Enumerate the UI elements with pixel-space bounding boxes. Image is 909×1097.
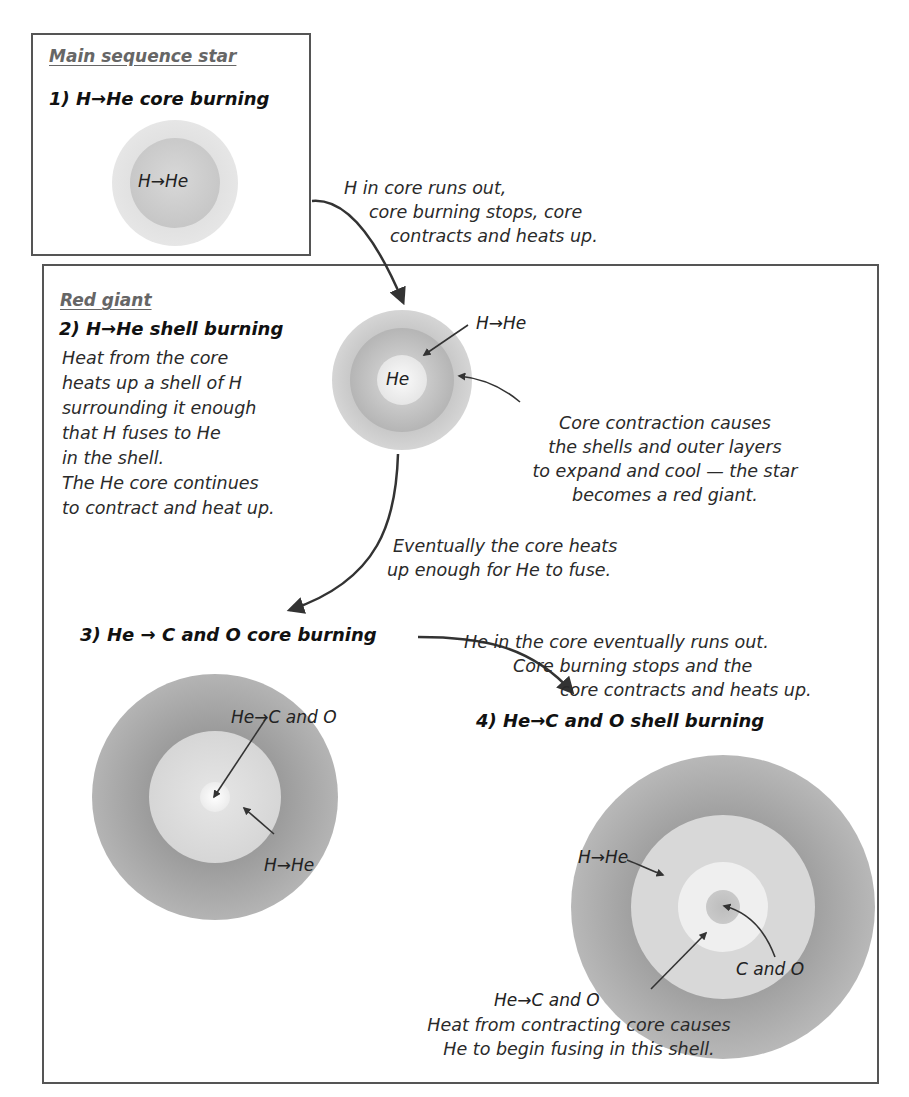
step2-desc-line: surrounding it enough — [62, 397, 256, 419]
step2-title: 2) H→He shell burning — [59, 318, 283, 339]
transition-2-3-line1: Eventually the core heats — [393, 535, 617, 557]
step1-title: 1) H→He core burning — [49, 88, 269, 109]
star2-core-label: He — [386, 369, 409, 389]
star3-shell-label: H→He — [264, 855, 314, 875]
star4-core-label: C and O — [736, 959, 804, 979]
expansion-note-line: Core contraction causes — [505, 412, 825, 434]
transition-3-4-line2: Core burning stops and the — [513, 655, 752, 677]
transition-1-2-line3: contracts and heats up. — [390, 225, 598, 247]
transition-1-2-line2: core burning stops, core — [369, 201, 582, 223]
step2-desc-line: Heat from the core — [62, 347, 228, 369]
step3-title: 3) He → C and O core burning — [80, 624, 377, 645]
expansion-note-line: becomes a red giant. — [505, 484, 825, 506]
star4-outer-shell-label: H→He — [578, 847, 628, 867]
step2-desc-line: The He core continues — [62, 472, 259, 494]
transition-2-3-line2: up enough for He to fuse. — [387, 559, 611, 581]
step2-desc-line: that H fuses to He — [62, 422, 221, 444]
star1-label: H→He — [138, 171, 188, 191]
expansion-note-line: the shells and outer layers — [505, 436, 825, 458]
step2-desc-line: to contract and heat up. — [62, 497, 275, 519]
expansion-note-line: to expand and cool — the star — [505, 460, 825, 482]
transition-1-2-line1: H in core runs out, — [344, 177, 506, 199]
step2-desc-line: heats up a shell of H — [62, 372, 242, 394]
star2-shell-label: H→He — [476, 313, 526, 333]
step4-note-line2: He to begin fusing in this shell. — [394, 1038, 764, 1060]
red-giant-title: Red giant — [60, 290, 152, 310]
star4-inner-shell-label: He→C and O — [494, 990, 600, 1010]
star3-core-label: He→C and O — [231, 707, 337, 727]
transition-3-4-line1: He in the core eventually runs out. — [464, 631, 769, 653]
step2-desc-line: in the shell. — [62, 447, 164, 469]
step4-note-line1: Heat from contracting core causes — [394, 1014, 764, 1036]
main-sequence-title: Main sequence star — [49, 46, 236, 66]
step4-title: 4) He→C and O shell burning — [476, 710, 764, 731]
transition-3-4-line3: core contracts and heats up. — [560, 679, 812, 701]
